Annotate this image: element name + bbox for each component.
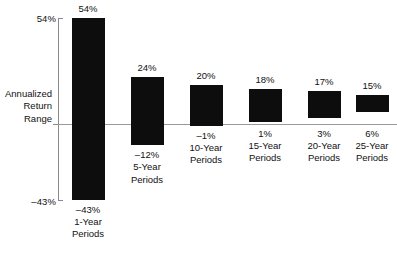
range-bar[interactable] xyxy=(249,89,282,122)
bar-group: 15%6%25-YearPeriods xyxy=(343,0,397,255)
bar-max-label: 15% xyxy=(343,80,397,91)
plot-area: 54%–43%1-YearPeriods24%–12%5-YearPeriods… xyxy=(0,0,397,255)
bar-group: 24%–12%5-YearPeriods xyxy=(118,0,176,255)
bar-group: 20%–1%10-YearPeriods xyxy=(177,0,235,255)
range-bar[interactable] xyxy=(131,77,164,145)
bar-category-label: 1-Year xyxy=(59,216,117,228)
bar-group: 54%–43%1-YearPeriods xyxy=(59,0,117,255)
bar-max-label: 18% xyxy=(236,74,294,85)
bar-category-label: 5-Year xyxy=(118,161,176,173)
range-bar[interactable] xyxy=(190,85,223,126)
bar-min-label: 6% xyxy=(343,128,397,140)
bar-min-label: –1% xyxy=(177,130,235,142)
bar-category-sublabel: Periods xyxy=(343,152,397,164)
bar-max-label: 54% xyxy=(59,3,117,14)
bar-bottom-labels: –1%10-YearPeriods xyxy=(177,130,235,167)
bar-category-sublabel: Periods xyxy=(236,152,294,164)
bar-bottom-labels: 6%25-YearPeriods xyxy=(343,128,397,165)
bar-min-label: 1% xyxy=(236,128,294,140)
bar-category-label: 15-Year xyxy=(236,140,294,152)
bar-category-label: 10-Year xyxy=(177,142,235,154)
bar-min-label: –43% xyxy=(59,204,117,216)
range-bar[interactable] xyxy=(356,95,389,113)
bar-category-sublabel: Periods xyxy=(59,228,117,240)
bar-group: 18%1%15-YearPeriods xyxy=(236,0,294,255)
bar-max-label: 20% xyxy=(177,70,235,81)
bar-bottom-labels: 1%15-YearPeriods xyxy=(236,128,294,165)
bar-category-label: 25-Year xyxy=(343,140,397,152)
chart-container: 54% –43% Annualized Return Range 54%–43%… xyxy=(0,0,397,255)
bar-category-sublabel: Periods xyxy=(177,154,235,166)
bar-category-sublabel: Periods xyxy=(118,174,176,186)
bar-bottom-labels: –12%5-YearPeriods xyxy=(118,149,176,186)
bar-max-label: 24% xyxy=(118,62,176,73)
bar-min-label: –12% xyxy=(118,149,176,161)
range-bar[interactable] xyxy=(72,18,105,200)
range-bar[interactable] xyxy=(308,91,341,118)
bar-bottom-labels: –43%1-YearPeriods xyxy=(59,204,117,241)
